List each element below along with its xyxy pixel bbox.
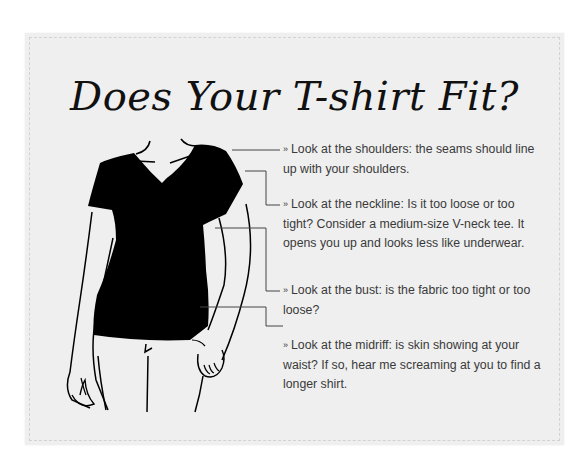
right-hand — [198, 350, 224, 377]
tip-bust: »Look at the bust: is the fabric too tig… — [283, 281, 541, 320]
jeans-pocket — [192, 340, 205, 346]
jeans-right-leg — [195, 376, 203, 412]
right-arm-outer — [222, 204, 251, 360]
jeans-left-leg — [98, 356, 106, 410]
right-arm-inner — [208, 218, 226, 330]
bullet-icon: » — [283, 285, 288, 295]
tshirt-shape — [88, 145, 243, 341]
connector-neckline — [245, 171, 280, 205]
bullet-icon: » — [283, 340, 288, 350]
right-fingers — [204, 363, 219, 374]
jeans-center-seam — [145, 344, 152, 412]
left-arm-outer — [67, 212, 92, 408]
tip-shoulders: »Look at the shoulders: the seams should… — [283, 140, 541, 179]
bullet-icon: » — [283, 199, 288, 209]
neck-right-line — [181, 139, 196, 146]
bullet-icon: » — [283, 144, 288, 154]
tip-neckline: »Look at the neckline: Is it too loose o… — [283, 195, 541, 253]
tip-midriff: »Look at the midriff: is skin showing at… — [283, 336, 541, 394]
infographic-card: Does Your T-shirt Fit? »Look at the shou… — [25, 33, 564, 445]
neck-left-line — [136, 141, 150, 154]
